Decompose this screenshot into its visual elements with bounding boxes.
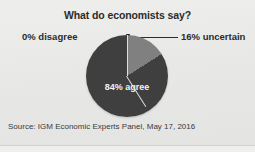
footer-band (0, 146, 255, 152)
slice-label-uncertain: 16% uncertain (181, 31, 245, 42)
pie-graphic: 84% agree (86, 35, 168, 117)
slice-label-disagree: 0% disagree (22, 31, 77, 42)
chart-title: What do economists say? (0, 9, 255, 21)
slice-label-agree: 84% agree (86, 82, 168, 92)
source-note: Source: IGM Economic Experts Panel, May … (8, 122, 195, 131)
slice-divider-top (127, 35, 128, 76)
pie-chart-figure: What do economists say? 0% disagree 16% … (0, 0, 255, 152)
